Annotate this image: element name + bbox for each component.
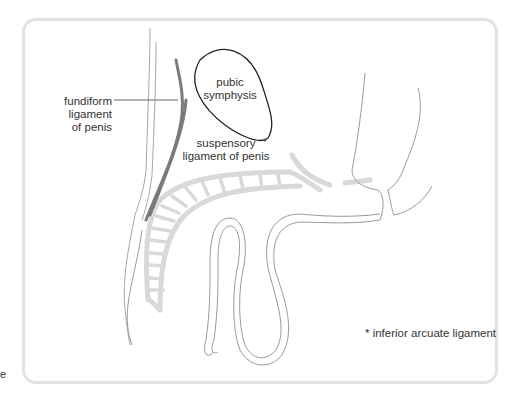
label-fundiform-ligament: fundiform ligament of penis [50, 95, 112, 134]
label-line: pubic [200, 76, 260, 89]
label-line: ligament [50, 108, 112, 121]
label-pubic-symphysis: pubic symphysis [200, 76, 260, 102]
label-line: fundiform [50, 95, 112, 108]
label-line: symphysis [200, 89, 260, 102]
corpus-tissue [146, 155, 370, 310]
label-line: ligament of penis [176, 150, 276, 163]
label-line: of penis [50, 121, 112, 134]
stray-text-fragment: e [0, 368, 6, 380]
label-suspensory-ligament: suspensory ligament of penis [176, 137, 276, 163]
label-line: suspensory [176, 137, 276, 150]
footnote-inferior-arcuate-ligament: * inferior arcuate ligament [365, 327, 496, 340]
